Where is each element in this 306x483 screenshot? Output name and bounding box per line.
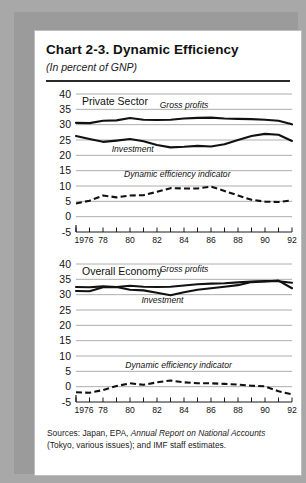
- annotation-dynamic-efficiency-indicator: Dynamic efficiency indicator: [125, 360, 233, 370]
- x-tick-label-1986: 86: [206, 235, 216, 245]
- y-tick-label-35: 35: [59, 103, 71, 115]
- sources-note: Sources: Japan, EPA, Annual Report on Na…: [47, 428, 291, 451]
- y-tick-label--5: -5: [62, 396, 71, 408]
- series-line-investment: [76, 281, 292, 296]
- x-tick-label-1992: 92: [287, 235, 297, 245]
- x-tick-label-1976: 1976: [74, 235, 93, 245]
- y-tick-label-15: 15: [59, 334, 71, 346]
- panel-overall-economy-svg: 4035302520151050-519767880828486889092Ov…: [34, 258, 302, 423]
- sources-publication: Annual Report on National Accounts: [131, 428, 266, 438]
- y-tick-label-35: 35: [59, 273, 71, 285]
- y-tick-label-0: 0: [65, 210, 71, 222]
- annotation-investment: Investment: [141, 295, 184, 305]
- x-tick-label-1984: 84: [179, 235, 189, 245]
- y-tick-label--5: -5: [62, 226, 71, 238]
- y-tick-label-5: 5: [65, 195, 71, 207]
- annotation-investment: Investment: [112, 144, 155, 154]
- panel-private-sector-svg: 4035302520151050-519767880828486889092Pr…: [34, 88, 302, 253]
- x-tick-label-1980: 80: [125, 235, 135, 245]
- series-line-gross-profits: [76, 118, 292, 125]
- sources-line2: various issues); and IMF staff estimates…: [76, 440, 226, 450]
- panel-private-sector: 4035302520151050-519767880828486889092Pr…: [34, 88, 302, 253]
- x-tick-label-1990: 90: [260, 405, 270, 415]
- x-tick-label-1984: 84: [179, 405, 189, 415]
- figure-card: Chart 2-3. Dynamic Efficiency (In percen…: [34, 30, 302, 476]
- y-tick-label-20: 20: [59, 319, 71, 331]
- sources-suffix: (Tokyo,: [47, 440, 74, 450]
- x-tick-label-1978: 78: [98, 405, 108, 415]
- page-background: Chart 2-3. Dynamic Efficiency (In percen…: [0, 0, 306, 483]
- annotation-dynamic-efficiency-indicator: Dynamic efficiency indicator: [124, 169, 232, 179]
- chart-subtitle: (In percent of GNP): [46, 61, 137, 73]
- annotation-gross-profits: Gross profits: [160, 264, 209, 274]
- panel-overall-economy: 4035302520151050-519767880828486889092Ov…: [34, 258, 302, 423]
- y-tick-label-30: 30: [59, 118, 71, 130]
- y-tick-label-30: 30: [59, 288, 71, 300]
- x-tick-label-1980: 80: [125, 405, 135, 415]
- x-tick-label-1990: 90: [260, 235, 270, 245]
- x-tick-label-1986: 86: [206, 405, 216, 415]
- y-tick-label-0: 0: [65, 380, 71, 392]
- y-tick-label-10: 10: [59, 350, 71, 362]
- y-tick-label-25: 25: [59, 134, 71, 146]
- panel-label: Private Sector: [82, 95, 148, 107]
- title-divider: [46, 80, 290, 82]
- page-frame: Chart 2-3. Dynamic Efficiency (In percen…: [14, 12, 298, 474]
- y-tick-label-25: 25: [59, 304, 71, 316]
- series-line-investment: [76, 134, 292, 147]
- series-line-dynamic-efficiency-indicator: [76, 381, 292, 395]
- panel-label: Overall Economy: [82, 265, 163, 277]
- x-tick-label-1988: 88: [233, 235, 243, 245]
- annotation-gross-profits: Gross profits: [160, 100, 209, 110]
- y-tick-label-5: 5: [65, 365, 71, 377]
- y-tick-label-40: 40: [59, 88, 71, 100]
- y-tick-label-20: 20: [59, 149, 71, 161]
- x-tick-label-1978: 78: [98, 235, 108, 245]
- y-tick-label-10: 10: [59, 180, 71, 192]
- x-tick-label-1988: 88: [233, 405, 243, 415]
- chart-title: Chart 2-3. Dynamic Efficiency: [46, 42, 239, 57]
- sources-prefix: Sources: Japan, EPA,: [47, 428, 131, 438]
- x-tick-label-1982: 82: [152, 235, 162, 245]
- x-tick-label-1976: 1976: [74, 405, 93, 415]
- y-tick-label-40: 40: [59, 258, 71, 270]
- x-tick-label-1982: 82: [152, 405, 162, 415]
- x-tick-label-1992: 92: [287, 405, 297, 415]
- y-tick-label-15: 15: [59, 164, 71, 176]
